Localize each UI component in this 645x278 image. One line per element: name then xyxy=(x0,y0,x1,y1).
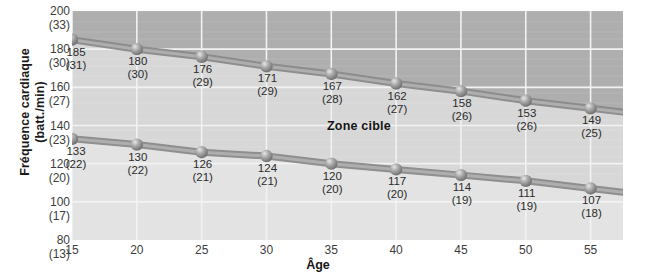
y-tick-value: 160 xyxy=(26,80,70,94)
y-tick-value: 200 xyxy=(26,4,70,18)
point-label-lower-limit-50: 111(19) xyxy=(517,187,537,213)
x-axis-title: Âge xyxy=(306,258,330,272)
y-tick-secondary-value: (20) xyxy=(26,171,70,185)
x-tick-20: 20 xyxy=(130,243,143,257)
y-tick-secondary-value: (23) xyxy=(26,133,70,147)
y-tick-100: 100(17) xyxy=(26,195,70,223)
point-label-upper-limit-45: 158(26) xyxy=(452,97,472,123)
y-tick-80: 80(13) xyxy=(26,233,70,261)
y-tick-120: 120(20) xyxy=(26,157,70,185)
point-secondary-value: (27) xyxy=(387,103,407,116)
x-tick-15: 15 xyxy=(65,243,78,257)
point-secondary-value: (21) xyxy=(192,171,212,184)
point-value: 162 xyxy=(387,90,407,103)
point-value: 117 xyxy=(387,175,407,188)
point-label-upper-limit-20: 180(30) xyxy=(128,55,148,81)
point-secondary-value: (21) xyxy=(257,175,277,188)
point-secondary-value: (18) xyxy=(581,207,601,220)
point-label-lower-limit-35: 120(20) xyxy=(322,170,342,196)
y-tick-180: 180(30) xyxy=(26,42,70,70)
y-tick-value: 140 xyxy=(26,119,70,133)
x-tick-40: 40 xyxy=(389,243,402,257)
y-tick-secondary-value: (17) xyxy=(26,209,70,223)
y-tick-value: 180 xyxy=(26,42,70,56)
point-label-upper-limit-15: 185(31) xyxy=(66,46,86,72)
point-value: 126 xyxy=(192,158,212,171)
y-tick-secondary-value: (33) xyxy=(26,18,70,32)
y-tick-secondary-value: (30) xyxy=(26,56,70,70)
point-label-upper-limit-30: 171(29) xyxy=(257,72,277,98)
point-value: 120 xyxy=(322,170,342,183)
point-secondary-value: (25) xyxy=(581,127,601,140)
point-value: 153 xyxy=(517,107,537,120)
point-label-lower-limit-25: 126(21) xyxy=(192,158,212,184)
y-tick-value: 100 xyxy=(26,195,70,209)
y-tick-secondary-value: (13) xyxy=(26,247,70,261)
point-secondary-value: (28) xyxy=(322,93,342,106)
point-label-lower-limit-15: 133(22) xyxy=(66,145,86,171)
y-tick-secondary-value: (27) xyxy=(26,94,70,108)
point-value: 114 xyxy=(452,181,472,194)
y-axis-tick-labels: 200(33)180(30)160(27)140(23)120(20)100(1… xyxy=(26,0,70,278)
point-label-upper-limit-40: 162(27) xyxy=(387,90,407,116)
point-label-upper-limit-50: 153(26) xyxy=(517,107,537,133)
point-label-lower-limit-55: 107(18) xyxy=(581,194,601,220)
point-secondary-value: (20) xyxy=(387,188,407,201)
point-label-lower-limit-45: 114(19) xyxy=(452,181,472,207)
point-value: 124 xyxy=(257,162,277,175)
plot-area: Zone cible xyxy=(72,11,623,240)
point-label-lower-limit-20: 130(22) xyxy=(128,151,148,177)
x-tick-50: 50 xyxy=(519,243,532,257)
point-secondary-value: (26) xyxy=(452,110,472,123)
point-value: 167 xyxy=(322,80,342,93)
y-tick-value: 80 xyxy=(26,233,70,247)
y-tick-200: 200(33) xyxy=(26,4,70,32)
point-secondary-value: (29) xyxy=(192,76,212,89)
point-value: 107 xyxy=(581,194,601,207)
y-tick-140: 140(23) xyxy=(26,119,70,147)
point-label-lower-limit-30: 124(21) xyxy=(257,162,277,188)
point-secondary-value: (19) xyxy=(517,200,537,213)
point-value: 171 xyxy=(257,72,277,85)
point-label-upper-limit-55: 149(25) xyxy=(581,114,601,140)
point-label-upper-limit-25: 176(29) xyxy=(192,63,212,89)
x-tick-45: 45 xyxy=(454,243,467,257)
y-tick-value: 120 xyxy=(26,157,70,171)
point-label-lower-limit-40: 117(20) xyxy=(387,175,407,201)
x-tick-30: 30 xyxy=(260,243,273,257)
x-tick-35: 35 xyxy=(325,243,338,257)
point-value: 111 xyxy=(517,187,537,200)
point-secondary-value: (20) xyxy=(322,183,342,196)
point-secondary-value: (26) xyxy=(517,120,537,133)
point-value: 149 xyxy=(581,114,601,127)
point-value: 185 xyxy=(66,46,86,59)
point-value: 133 xyxy=(66,145,86,158)
point-secondary-value: (30) xyxy=(128,68,148,81)
point-secondary-value: (22) xyxy=(128,164,148,177)
point-value: 176 xyxy=(192,63,212,76)
x-tick-55: 55 xyxy=(584,243,597,257)
point-value: 180 xyxy=(128,55,148,68)
point-label-upper-limit-35: 167(28) xyxy=(322,80,342,106)
heart-rate-target-zone-chart: Fréquence cardiaque (batt./min) 200(33)1… xyxy=(0,0,645,278)
point-secondary-value: (29) xyxy=(257,85,277,98)
x-tick-25: 25 xyxy=(195,243,208,257)
point-secondary-value: (31) xyxy=(66,59,86,72)
zone-cible-annotation: Zone cible xyxy=(327,119,391,133)
point-value: 130 xyxy=(128,151,148,164)
y-tick-160: 160(27) xyxy=(26,80,70,108)
point-secondary-value: (19) xyxy=(452,194,472,207)
point-secondary-value: (22) xyxy=(66,158,86,171)
point-value: 158 xyxy=(452,97,472,110)
